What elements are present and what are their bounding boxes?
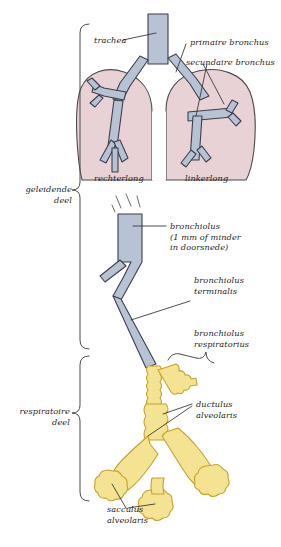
bronchiolus-shape (113, 214, 142, 300)
label-primaire-bronchus: primaire bronchus (190, 37, 269, 48)
sacculus-connector-middle (151, 478, 164, 494)
left-lung-shape (166, 70, 255, 180)
label-ductulus-alveolaris-line2: alveolaris (196, 410, 237, 420)
label-rechterlong: rechterlong (94, 173, 144, 184)
label-sacculus-alveolaris-line1: sacculus (107, 504, 143, 514)
label-linkerlong: linkerlong (185, 173, 228, 184)
respiratory-tract-diagram: geleidendedeel respiratoiredeel trachea … (0, 0, 281, 547)
bracket-label-conducting: geleidendedeel (8, 184, 72, 205)
label-bronchiolus-terminalis: bronchiolusterminalis (194, 275, 244, 296)
label-secundaire-bronchus: secundaire bronchus (186, 57, 275, 68)
trachea-shape (148, 14, 168, 64)
label-trachea: trachea (94, 35, 126, 46)
right-lower-branch-c (112, 148, 118, 172)
bracket-label-respiratory-line2: deel (52, 417, 70, 427)
label-bronchiolus-respiratorius-line1: bronchiolus (194, 328, 244, 338)
cut-mark-4 (112, 205, 115, 212)
bronchiolus-terminalis-shape (113, 296, 156, 368)
mediastinum-gap (152, 104, 166, 180)
sacculus-alveolaris-right (194, 465, 229, 497)
label-bronchiolus-note-line2: in doorsnede) (170, 242, 228, 252)
label-bronchiolus-respiratorius: bronchiolusrespiratorius (194, 328, 249, 349)
bracket-conducting (72, 24, 89, 349)
cut-mark-1 (116, 196, 121, 208)
label-bronchiolus-name: bronchiolus (170, 221, 220, 231)
bronchiolus-respiratorius-branch (158, 364, 197, 394)
leader-bronchiolus-respiratorius (168, 352, 214, 363)
bracket-label-respiratory: respiratoiredeel (4, 406, 70, 427)
bracket-respiratory (72, 356, 89, 501)
label-ductulus-alveolaris-line1: ductulus (196, 399, 233, 409)
alveolar-group (94, 364, 229, 521)
bracket-label-respiratory-line1: respiratoire (20, 406, 70, 416)
bracket-label-conducting-line2: deel (54, 195, 72, 205)
label-sacculus-alveolaris: sacculusalveolaris (107, 504, 148, 525)
cut-marks-group (112, 194, 140, 212)
bracket-label-conducting-line1: geleidende (25, 184, 72, 194)
label-bronchiolus-note-line1: (1 mm of minder (170, 232, 241, 242)
diagram-canvas (0, 0, 281, 547)
leader-bronchiolus-terminalis (131, 301, 190, 320)
label-ductulus-alveolaris: ductulusalveolaris (196, 399, 237, 420)
cut-mark-2 (126, 194, 131, 206)
label-bronchiolus-respiratorius-line2: respiratorius (194, 339, 249, 349)
label-bronchiolus-terminalis-line1: bronchiolus (194, 275, 244, 285)
label-bronchiolus-terminalis-line2: terminalis (194, 286, 237, 296)
lungs-group (76, 70, 255, 180)
label-bronchiolus: bronchiolus(1 mm of minderin doorsnede) (170, 221, 241, 253)
cut-mark-3 (137, 196, 140, 207)
label-sacculus-alveolaris-line2: alveolaris (107, 515, 148, 525)
